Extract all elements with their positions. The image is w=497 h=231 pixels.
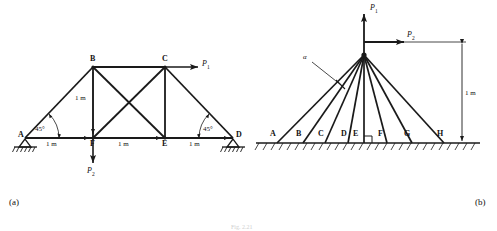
angle-label-alpha: α <box>303 54 307 61</box>
node-label-D-panel-a: D <box>236 131 242 139</box>
force-label-P2-panel-b-sub: 2 <box>412 35 415 41</box>
node-label-F-panel-a: F <box>90 140 95 148</box>
ground-label-C-panel-b: C <box>318 130 324 138</box>
force-label-P2-panel-a: P2 <box>87 167 95 177</box>
force-label-P1-panel-a: P1 <box>202 60 210 70</box>
dimension-label-E-D: 1 m <box>189 141 200 148</box>
node-dot-B <box>91 65 94 68</box>
ground-label-D-panel-b: D <box>341 130 347 138</box>
figure-background <box>0 0 497 231</box>
panel-tag-a: (a) <box>9 198 19 207</box>
panel-tag-b: (b) <box>475 198 486 207</box>
dimension-label-B-F: 1 m <box>75 95 86 102</box>
node-label-E-panel-a: E <box>162 140 167 148</box>
dimension-label-F-E: 1 m <box>118 141 129 148</box>
engineering-figure <box>0 0 497 231</box>
ground-label-G-panel-b: G <box>404 130 410 138</box>
force-label-P1-panel-b-sub: 1 <box>375 8 378 14</box>
angle-label-D: 45° <box>203 126 213 133</box>
node-label-C-panel-a: C <box>162 55 168 63</box>
ground-label-B-panel-b: B <box>296 130 301 138</box>
force-label-P1-panel-a-sub: 1 <box>207 64 210 70</box>
figure-caption: Fig. 2.21 <box>231 224 253 230</box>
angle-label-A: 45° <box>35 126 45 133</box>
force-label-P2-panel-b: P2 <box>407 31 415 41</box>
dimension-label-height-1m: 1 m <box>465 90 476 97</box>
force-label-P2-panel-a-sub: 2 <box>92 171 95 177</box>
ground-label-H-panel-b: H <box>437 130 443 138</box>
dimension-label-A-F: 1 m <box>46 141 57 148</box>
force-label-P1-panel-b: P1 <box>370 4 378 14</box>
node-label-A-panel-a: A <box>18 131 24 139</box>
ground-label-A-panel-b: A <box>270 130 276 138</box>
ground-label-E-panel-b: E <box>353 130 358 138</box>
ground-label-F-panel-b: F <box>378 130 383 138</box>
node-label-B-panel-a: B <box>90 55 95 63</box>
